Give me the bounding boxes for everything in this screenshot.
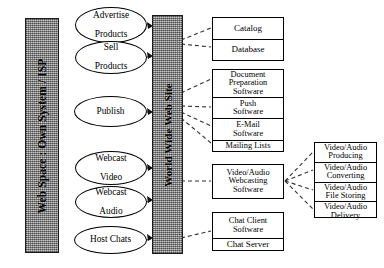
box-mailing-lists[interactable]: Mailing Lists	[213, 141, 283, 151]
box-chat-server-label: Chat Server	[225, 239, 272, 250]
connector-site-catalog	[181, 28, 211, 40]
activity-advertise-products[interactable]: Advertise Products	[75, 7, 147, 43]
activity-sell-products[interactable]: Sell Products	[75, 41, 147, 74]
box-video-audio-delivery-label: Video/Audio Delivery	[322, 202, 369, 221]
box-video-audio-converting[interactable]: Video/Audio Converting	[315, 163, 376, 183]
connector-site-docprep	[181, 79, 211, 93]
box-video-audio-converting-label: Video/Audio Converting	[322, 163, 369, 182]
connector-webcasting-storing	[285, 181, 313, 190]
box-video-audio-webcasting-software-label: Video/Audio Webcasting Software	[224, 168, 271, 195]
publishing-group: Document Preparation Software Push Softw…	[212, 69, 284, 152]
connector-webcasting-converting	[285, 170, 313, 181]
bar-web-space: Web Space : Own System / ISP	[25, 18, 59, 253]
activity-host-chats-label: Host Chats	[85, 235, 136, 244]
box-video-audio-producing[interactable]: Video/Audio Producing	[315, 143, 376, 163]
box-database-label: Database	[230, 44, 267, 55]
box-email-software[interactable]: E-Mail Software	[213, 119, 283, 140]
activity-publish-label: Publish	[92, 107, 130, 116]
connector-site-push	[181, 106, 211, 107]
box-push-software-label: Push Software	[231, 99, 265, 118]
activity-sell-products-label: Sell Products	[85, 43, 138, 71]
activity-webcast-video-label: Webcast Video	[85, 154, 136, 182]
box-mailing-lists-label: Mailing Lists	[224, 141, 273, 151]
webcasting-group: Video/Audio Webcasting Software	[212, 164, 284, 199]
media-pipeline-group: Video/Audio Producing Video/Audio Conver…	[314, 142, 377, 218]
chat-group: Chat Client Software Chat Server	[212, 212, 284, 251]
activity-webcast-audio-label: Webcast Audio	[85, 188, 136, 216]
box-video-audio-file-storing-label: Video/Audio File Storing	[322, 183, 369, 202]
box-chat-client-software[interactable]: Chat Client Software	[213, 213, 283, 239]
connector-site-database	[181, 44, 211, 47]
diagram-canvas: Web Space : Own System / ISP Advertise P…	[0, 0, 384, 268]
activity-advertise-products-label: Advertise Products	[83, 11, 139, 39]
bar-web-space-label: Web Space : Own System / ISP	[36, 58, 48, 213]
box-chat-server[interactable]: Chat Server	[213, 239, 283, 250]
box-video-audio-webcasting-software[interactable]: Video/Audio Webcasting Software	[213, 165, 283, 198]
box-document-preparation-software-label: Document Preparation Software	[227, 70, 270, 97]
box-push-software[interactable]: Push Software	[213, 98, 283, 119]
connector-site-chat	[181, 231, 211, 238]
box-video-audio-producing-label: Video/Audio Producing	[322, 143, 369, 162]
box-video-audio-file-storing[interactable]: Video/Audio File Storing	[315, 183, 376, 203]
connector-site-email	[181, 112, 211, 126]
bar-world-wide-web-site: World Wide Web Site	[152, 15, 183, 254]
box-catalog-label: Catalog	[232, 23, 264, 34]
box-database[interactable]: Database	[213, 40, 283, 61]
activity-webcast-video[interactable]: Webcast Video	[75, 151, 147, 185]
box-document-preparation-software[interactable]: Document Preparation Software	[213, 70, 283, 98]
box-catalog[interactable]: Catalog	[213, 18, 283, 40]
box-email-software-label: E-Mail Software	[231, 120, 265, 139]
connector-webcasting-producing	[285, 152, 313, 181]
connector-site-mailing	[181, 118, 211, 143]
commerce-group: Catalog Database	[212, 17, 284, 61]
activity-host-chats[interactable]: Host Chats	[74, 226, 147, 254]
bar-world-wide-web-site-label: World Wide Web Site	[162, 83, 174, 187]
activity-publish[interactable]: Publish	[74, 96, 147, 127]
box-chat-client-software-label: Chat Client Software	[227, 216, 269, 235]
activity-webcast-audio[interactable]: Webcast Audio	[75, 186, 147, 218]
box-video-audio-delivery[interactable]: Video/Audio Delivery	[315, 202, 376, 221]
